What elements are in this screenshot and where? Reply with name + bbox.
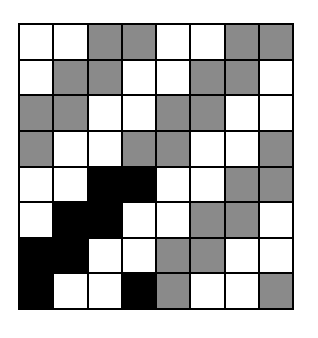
grid-cell-r6-c3 — [123, 239, 155, 273]
grid-cell-r2-c5 — [191, 96, 223, 130]
grid-cell-r0-c7 — [260, 25, 292, 59]
grid-cell-r5-c5 — [191, 203, 223, 237]
grid-cell-r4-c4 — [157, 168, 189, 202]
grid-cell-r7-c0 — [20, 274, 52, 308]
grid-cell-r2-c6 — [226, 96, 258, 130]
grid-cell-r5-c7 — [260, 203, 292, 237]
grid-cell-r7-c1 — [54, 274, 86, 308]
grid-cell-r0-c6 — [226, 25, 258, 59]
grid-cell-r7-c7 — [260, 274, 292, 308]
grid-cell-r2-c2 — [89, 96, 121, 130]
grid-cell-r4-c2 — [89, 168, 121, 202]
grid-cell-r3-c6 — [226, 132, 258, 166]
grid-cell-r1-c0 — [20, 61, 52, 95]
grid-cell-r4-c3 — [123, 168, 155, 202]
grid-cell-r5-c6 — [226, 203, 258, 237]
grid-cell-r3-c2 — [89, 132, 121, 166]
grid-cell-r1-c3 — [123, 61, 155, 95]
grid-cell-r0-c4 — [157, 25, 189, 59]
grid-cell-r0-c1 — [54, 25, 86, 59]
grid-cell-r1-c6 — [226, 61, 258, 95]
grid-cell-r5-c2 — [89, 203, 121, 237]
grid-cell-r1-c2 — [89, 61, 121, 95]
grid-cell-r2-c1 — [54, 96, 86, 130]
grid-cell-r1-c4 — [157, 61, 189, 95]
grid-cell-r0-c2 — [89, 25, 121, 59]
grid-cell-r6-c5 — [191, 239, 223, 273]
grid-cell-r3-c7 — [260, 132, 292, 166]
grid-cell-r5-c4 — [157, 203, 189, 237]
grid-cell-r4-c1 — [54, 168, 86, 202]
grid-cell-r2-c3 — [123, 96, 155, 130]
grid-cell-r3-c5 — [191, 132, 223, 166]
grid-cell-r7-c6 — [226, 274, 258, 308]
grid-cell-r0-c5 — [191, 25, 223, 59]
grid-cell-r5-c3 — [123, 203, 155, 237]
grid-cell-r2-c7 — [260, 96, 292, 130]
grid-cell-r7-c2 — [89, 274, 121, 308]
grid-cell-r4-c5 — [191, 168, 223, 202]
grid-cell-r0-c3 — [123, 25, 155, 59]
grid-cell-r5-c1 — [54, 203, 86, 237]
grid-cell-r0-c0 — [20, 25, 52, 59]
pattern-grid — [18, 23, 294, 310]
grid-cell-r1-c1 — [54, 61, 86, 95]
grid-cell-r6-c6 — [226, 239, 258, 273]
grid-cell-r7-c3 — [123, 274, 155, 308]
grid-cell-r7-c4 — [157, 274, 189, 308]
grid-cell-r6-c1 — [54, 239, 86, 273]
grid-cell-r6-c4 — [157, 239, 189, 273]
grid-cell-r1-c5 — [191, 61, 223, 95]
grid-cell-r7-c5 — [191, 274, 223, 308]
grid-cell-r3-c3 — [123, 132, 155, 166]
grid-cell-r6-c7 — [260, 239, 292, 273]
grid-cell-r2-c0 — [20, 96, 52, 130]
grid-cell-r4-c6 — [226, 168, 258, 202]
grid-cell-r4-c0 — [20, 168, 52, 202]
grid-cell-r4-c7 — [260, 168, 292, 202]
grid-cell-r3-c1 — [54, 132, 86, 166]
grid-cell-r6-c2 — [89, 239, 121, 273]
grid-cell-r2-c4 — [157, 96, 189, 130]
grid-cell-r1-c7 — [260, 61, 292, 95]
grid-cell-r3-c0 — [20, 132, 52, 166]
grid-cell-r6-c0 — [20, 239, 52, 273]
grid-cell-r5-c0 — [20, 203, 52, 237]
grid-cell-r3-c4 — [157, 132, 189, 166]
